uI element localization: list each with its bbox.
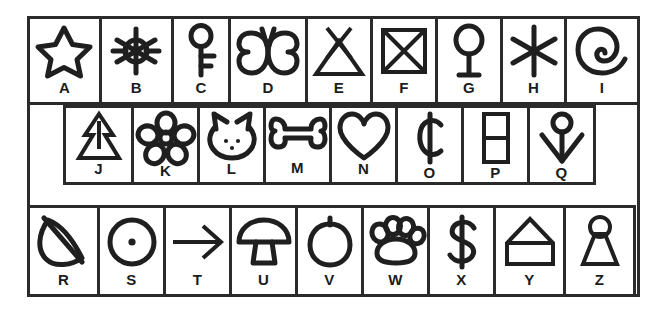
cell-letter: I [600, 80, 604, 102]
cell-letter: Z [595, 272, 604, 294]
house-icon [496, 208, 563, 272]
cell-letter: R [58, 272, 69, 294]
cell-letter: O [424, 165, 436, 187]
cell-letter: F [399, 80, 408, 102]
star-icon [30, 19, 99, 80]
cell-letter: W [388, 272, 402, 294]
symbol-cell-p[interactable]: P [461, 105, 530, 185]
cell-letter: C [195, 80, 206, 102]
cat-face-icon [200, 108, 263, 161]
symbol-cell-r[interactable]: R [27, 205, 100, 297]
symbol-cell-q[interactable]: Q [527, 105, 596, 185]
symbol-cell-w[interactable]: W [361, 205, 430, 297]
symbol-cell-b[interactable]: B [99, 16, 174, 105]
keyhole-icon [566, 208, 633, 272]
symbol-row-2: J K [63, 105, 605, 185]
cell-letter: H [528, 80, 539, 102]
symbol-cell-t[interactable]: T [163, 205, 232, 297]
cell-letter: G [463, 80, 475, 102]
symbol-cell-s[interactable]: S [97, 205, 166, 297]
symbol-cell-m[interactable]: M [263, 105, 332, 185]
cell-letter: N [358, 161, 369, 183]
mushroom-icon [232, 208, 295, 272]
symbol-cell-j[interactable]: J [63, 105, 134, 185]
arrow-right-icon [166, 208, 229, 272]
asterisk-icon [503, 19, 564, 80]
symbol-cell-k[interactable]: K [131, 105, 200, 185]
teepee-icon [308, 19, 370, 80]
key-icon [174, 19, 228, 80]
divided-rectangle-icon [464, 108, 527, 165]
dotted-circle-icon [100, 208, 163, 272]
symbol-cell-h[interactable]: H [500, 16, 567, 105]
symbol-cell-f[interactable]: F [370, 16, 438, 105]
symbol-cell-u[interactable]: U [229, 205, 298, 297]
crossed-box-icon [373, 19, 435, 80]
heart-icon [332, 108, 395, 161]
cell-letter: V [324, 272, 334, 294]
cell-letter: D [262, 80, 273, 102]
symbol-cell-a[interactable]: A [27, 16, 102, 105]
balloon-icon [438, 19, 500, 80]
symbol-key-chart: A B C [0, 0, 667, 313]
spiral-icon [567, 19, 637, 80]
cell-letter: L [227, 161, 236, 183]
paw-print-icon [364, 208, 427, 272]
bone-icon [266, 108, 329, 160]
sun-icon [102, 19, 171, 80]
cell-letter: B [131, 80, 142, 102]
cell-letter: E [334, 80, 344, 102]
symbol-cell-i[interactable]: I [564, 16, 640, 105]
symbol-cell-e[interactable]: E [305, 16, 373, 105]
butterfly-icon [231, 19, 305, 80]
flower-icon [134, 108, 197, 163]
cell-letter: Y [524, 272, 534, 294]
cell-letter: J [94, 161, 103, 183]
symbol-cell-l[interactable]: L [197, 105, 266, 185]
pine-tree-icon [66, 108, 131, 161]
cell-letter: Q [556, 165, 568, 187]
symbol-cell-v[interactable]: V [295, 205, 364, 297]
symbol-cell-c[interactable]: C [171, 16, 231, 105]
cell-letter: P [490, 165, 500, 187]
cell-letter: X [456, 272, 466, 294]
dollar-sign-icon [430, 208, 493, 272]
cell-letter: T [193, 272, 202, 294]
symbol-cell-o[interactable]: O [395, 105, 464, 185]
cell-letter: M [291, 160, 304, 182]
symbol-cell-z[interactable]: Z [563, 205, 636, 297]
symbol-cell-g[interactable]: G [435, 16, 503, 105]
cell-letter: K [160, 163, 171, 185]
cell-letter: S [126, 272, 136, 294]
cell-letter: A [59, 80, 70, 102]
anchor-arrow-icon [530, 108, 593, 165]
symbol-cell-y[interactable]: Y [493, 205, 566, 297]
symbol-cell-n[interactable]: N [329, 105, 398, 185]
cell-letter: U [258, 272, 269, 294]
apple-icon [298, 208, 361, 272]
cent-sign-icon [398, 108, 461, 165]
symbol-cell-x[interactable]: X [427, 205, 496, 297]
leaf-icon [30, 208, 97, 272]
symbol-row-1: A B C [27, 16, 640, 105]
symbol-row-3: R S T [27, 205, 640, 297]
symbol-cell-d[interactable]: D [228, 16, 308, 105]
